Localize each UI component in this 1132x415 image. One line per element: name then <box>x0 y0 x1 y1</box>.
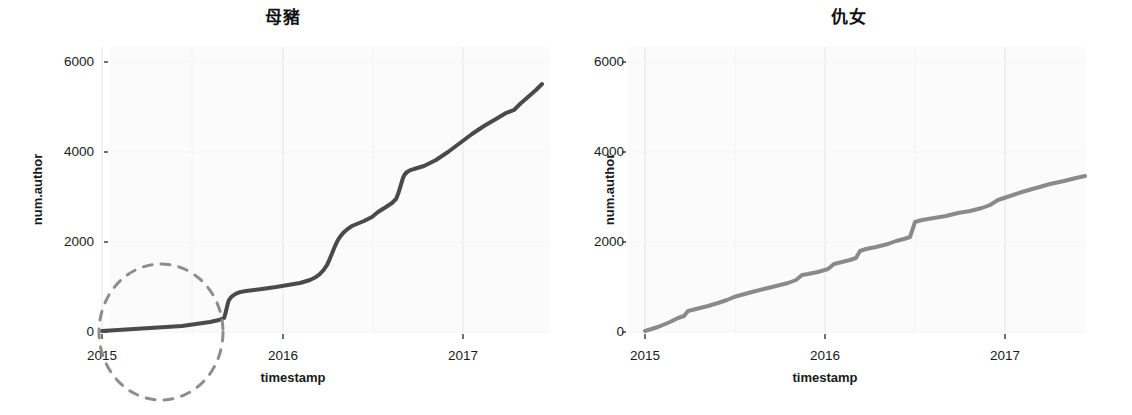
x-tick-marks-left <box>102 334 463 339</box>
plot-area-left <box>0 0 566 415</box>
figure-root: 母豬 num.author timestamp 6000 4000 2000 0… <box>0 0 1132 415</box>
plot-background-left <box>110 47 550 332</box>
y-tick-marks-right <box>622 62 626 332</box>
chart-panel-right: 仇女 num.author timestamp 6000 4000 2000 0… <box>566 0 1132 415</box>
y-tick-marks-left <box>104 62 108 332</box>
plot-background-right <box>628 47 1086 332</box>
x-tick-marks-right <box>645 334 1005 339</box>
chart-panel-left: 母豬 num.author timestamp 6000 4000 2000 0… <box>0 0 566 415</box>
plot-area-right <box>566 0 1132 415</box>
